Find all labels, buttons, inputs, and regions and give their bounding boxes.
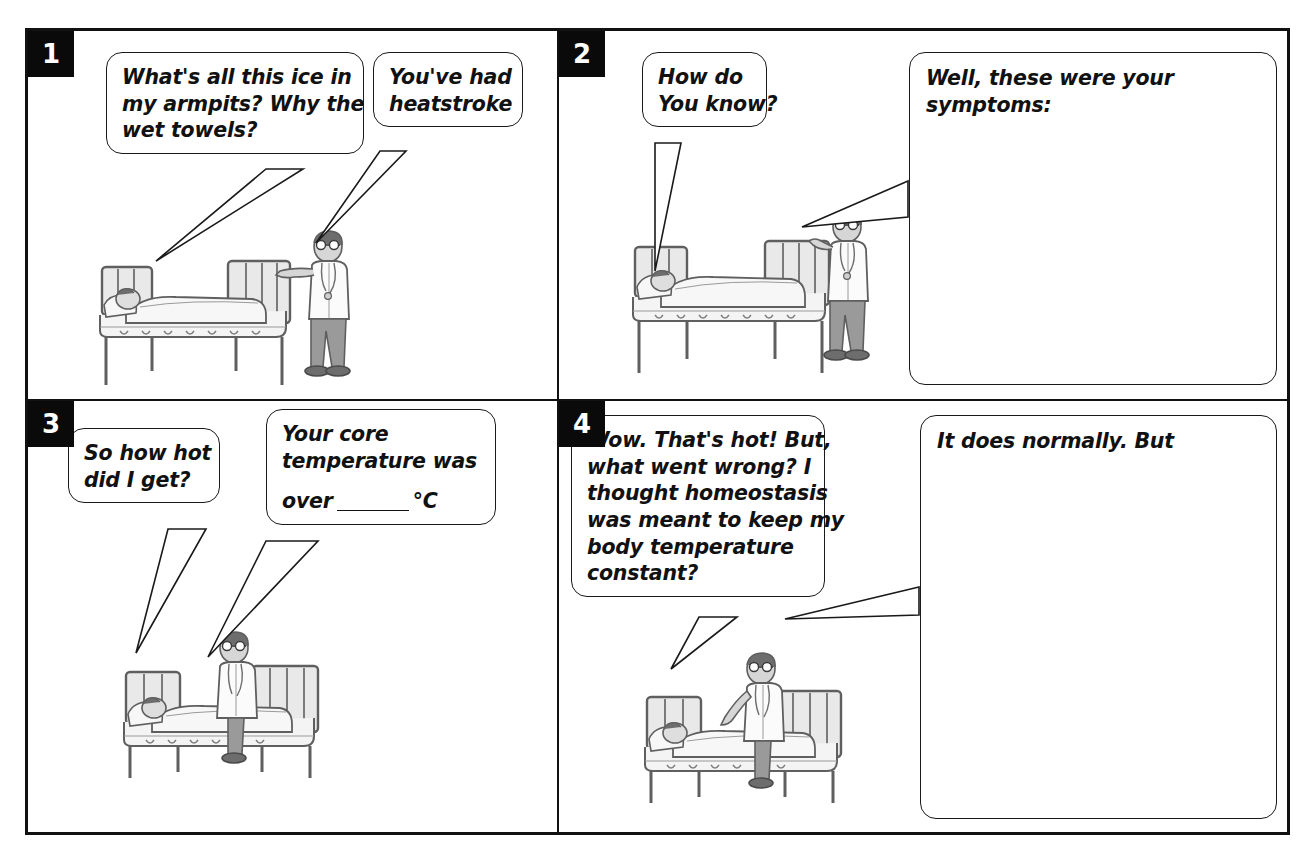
bubble-line: heatstroke (389, 91, 508, 118)
bubble-line: What's all this ice in (122, 64, 349, 91)
panel-number-badge-2: 2 (559, 31, 605, 77)
patient-head (116, 289, 140, 309)
bubble-line: You know? (658, 91, 752, 118)
bubble-line: body temperature (587, 534, 810, 561)
blank-prefix: over (282, 489, 333, 513)
patient-head (663, 723, 687, 743)
panel-1-bubble-doctor: You've had heatstroke (373, 52, 523, 127)
patient-head (142, 698, 166, 718)
panel-3: 3 So how hot did I get? Your core temper… (28, 401, 557, 832)
panel-1-scene (80, 219, 370, 394)
bubble-line: Your core (282, 421, 481, 448)
panel-number-badge-4: 4 (559, 401, 605, 447)
bubble-line: constant? (587, 560, 810, 587)
comic-worksheet: 1 What's all this ice in my armpits? Why… (0, 0, 1315, 856)
panel-2-bubble-patient: How do You know? (642, 52, 767, 127)
bubble-line: my armpits? Why the (122, 91, 349, 118)
bubble-line: temperature was (282, 448, 481, 475)
bubble-line: wet towels? (122, 117, 349, 144)
panel-2-bubble-answer-box: Well, these were your symptoms: (909, 52, 1277, 385)
panel-4-bubble-answer-box: It does normally. But (920, 415, 1277, 819)
panel-1-bubble-patient: What's all this ice in my armpits? Why t… (106, 52, 364, 154)
panel-4-bubble-patient: Wow. That's hot! But, what went wrong? I… (571, 415, 825, 597)
bubble-line: symptoms: (926, 92, 1260, 119)
bubble-line: How do (658, 64, 752, 91)
panel-2-scene (607, 201, 907, 391)
panel-3-scene (100, 606, 380, 786)
bubble-line: what went wrong? I (587, 454, 810, 481)
panel-number-badge-3: 3 (28, 401, 74, 447)
bubble-line: You've had (389, 64, 508, 91)
blank-suffix: °C (413, 489, 438, 513)
panel-4-scene (619, 629, 909, 809)
bubble-line: thought homeostasis (587, 480, 810, 507)
bubble-line: It does normally. But (937, 428, 1260, 455)
panel-1: 1 What's all this ice in my armpits? Why… (28, 31, 557, 399)
panel-3-bubble-doctor: Your core temperature was over°C (266, 409, 496, 525)
bubble-line: was meant to keep my (587, 507, 810, 534)
bubble-line: did I get? (84, 467, 205, 494)
panel-3-bubble-patient: So how hot did I get? (68, 428, 220, 503)
bubble-line: Well, these were your (926, 65, 1260, 92)
patient-head (651, 271, 675, 291)
panel-2: 2 How do You know? Well, these were your… (559, 31, 1287, 399)
panel-4: 4 Wow. That's hot! But, what went wrong?… (559, 401, 1287, 832)
bubble-blank-line: over°C (282, 488, 481, 515)
fill-in-blank[interactable] (337, 510, 409, 511)
bubble-line: So how hot (84, 440, 205, 467)
panel-number-badge-1: 1 (28, 31, 74, 77)
bubble-line: Wow. That's hot! But, (587, 427, 810, 454)
